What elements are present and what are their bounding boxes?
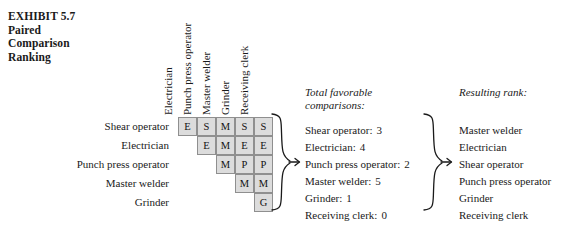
totals-item-label: Grinder: bbox=[305, 192, 342, 204]
totals-item-label: Shear operator: bbox=[305, 124, 373, 136]
totals-item-value: 0 bbox=[377, 209, 387, 221]
matrix-cell: M bbox=[216, 155, 235, 174]
rank-list: Master welderElectricianShear operatorPu… bbox=[459, 122, 551, 224]
matrix-column-header: Receiving clerk bbox=[235, 10, 254, 116]
totals-item-label: Punch press operator: bbox=[305, 158, 400, 170]
totals-item-value: 1 bbox=[342, 192, 352, 204]
matrix-row: G bbox=[178, 193, 273, 212]
matrix-cell: M bbox=[235, 174, 254, 193]
matrix-cell: E bbox=[197, 136, 216, 155]
totals-item-value: 4 bbox=[356, 141, 366, 153]
rank-item: Punch press operator bbox=[459, 173, 551, 190]
exhibit-title-block: EXHIBIT 5.7 Paired Comparison Ranking bbox=[8, 10, 75, 64]
rank-heading: Resulting rank: bbox=[459, 86, 527, 99]
exhibit-title-line-1: Paired bbox=[8, 24, 75, 38]
totals-item: Master welder:5 bbox=[305, 173, 410, 190]
exhibit-title-line-2: Comparison bbox=[8, 37, 75, 51]
matrix-column-headers: ElectricianPunch press operatorMaster we… bbox=[178, 10, 273, 116]
matrix-cell: S bbox=[197, 117, 216, 136]
matrix-column-header-label: Grinder bbox=[216, 81, 235, 116]
matrix-row-label: Master welder bbox=[0, 174, 174, 193]
matrix-row-label: Punch press operator bbox=[0, 155, 174, 174]
matrix-row-label: Shear operator bbox=[0, 117, 174, 136]
matrix-column-header: Master welder bbox=[197, 10, 216, 116]
exhibit-number: EXHIBIT 5.7 bbox=[8, 10, 75, 24]
matrix-row: ESMSS bbox=[178, 117, 273, 136]
matrix-row: MPP bbox=[178, 155, 273, 174]
totals-heading-line-2: comparisons: bbox=[305, 99, 372, 112]
totals-list: Shear operator:3Electrician:4Punch press… bbox=[305, 122, 410, 224]
totals-heading: Total favorable comparisons: bbox=[305, 86, 372, 111]
matrix-row-labels: Shear operatorElectricianPunch press ope… bbox=[0, 117, 174, 212]
totals-item: Punch press operator:2 bbox=[305, 156, 410, 173]
matrix-column-header: Electrician bbox=[159, 10, 178, 116]
totals-item-value: 3 bbox=[373, 124, 383, 136]
matrix-column-header-label: Punch press operator bbox=[178, 23, 197, 116]
totals-item-label: Receiving clerk: bbox=[305, 209, 377, 221]
exhibit-figure: EXHIBIT 5.7 Paired Comparison Ranking El… bbox=[0, 0, 581, 240]
brace-matrix-to-totals bbox=[268, 112, 302, 212]
rank-item: Electrician bbox=[459, 139, 551, 156]
totals-item-label: Master welder: bbox=[305, 175, 371, 187]
matrix-row: EMEE bbox=[178, 136, 273, 155]
matrix-cell: P bbox=[235, 155, 254, 174]
rank-item: Shear operator bbox=[459, 156, 551, 173]
matrix-cell: M bbox=[216, 136, 235, 155]
matrix-column-header-label: Receiving clerk bbox=[235, 46, 254, 116]
matrix-column-header-label: Electrician bbox=[159, 67, 178, 116]
totals-heading-line-1: Total favorable bbox=[305, 86, 372, 99]
matrix-column-header: Punch press operator bbox=[178, 10, 197, 116]
totals-item: Electrician:4 bbox=[305, 139, 410, 156]
rank-item: Grinder bbox=[459, 190, 551, 207]
matrix-cell: M bbox=[216, 117, 235, 136]
matrix-column-header-label: Master welder bbox=[197, 52, 216, 116]
rank-item: Receiving clerk bbox=[459, 207, 551, 224]
totals-item-value: 2 bbox=[400, 158, 410, 170]
totals-item: Grinder:1 bbox=[305, 190, 410, 207]
matrix-row-label: Grinder bbox=[0, 193, 174, 212]
totals-item-label: Electrician: bbox=[305, 141, 356, 153]
totals-item: Receiving clerk:0 bbox=[305, 207, 410, 224]
totals-item: Shear operator:3 bbox=[305, 122, 410, 139]
matrix-cell: E bbox=[178, 117, 197, 136]
matrix-row: MM bbox=[178, 174, 273, 193]
exhibit-title-line-3: Ranking bbox=[8, 51, 75, 65]
matrix-column-header: Grinder bbox=[216, 10, 235, 116]
matrix-cell: S bbox=[235, 117, 254, 136]
matrix-cell: E bbox=[235, 136, 254, 155]
matrix-row-label: Electrician bbox=[0, 136, 174, 155]
rank-item: Master welder bbox=[459, 122, 551, 139]
totals-item-value: 5 bbox=[371, 175, 381, 187]
paired-comparison-matrix: ESMSSEMEEMPPMMG bbox=[178, 117, 273, 212]
brace-totals-to-rank bbox=[420, 112, 454, 212]
